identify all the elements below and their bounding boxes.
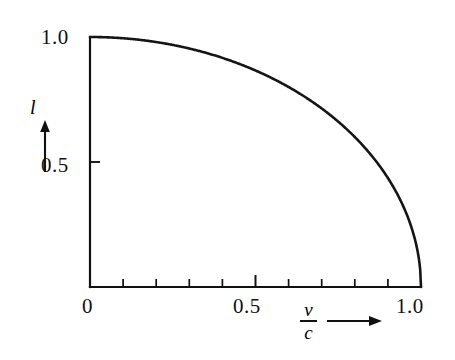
fraction-denominator: c: [301, 322, 315, 342]
y-tick-label-1: 1.0: [41, 25, 69, 50]
x-axis-arrow-icon: [326, 313, 384, 329]
y-tick-label-0point5: 0.5: [41, 153, 69, 178]
v-over-c-fraction: v c: [300, 300, 317, 342]
x-tick-label-1: 1.0: [396, 294, 424, 319]
y-axis-title: l: [30, 96, 36, 119]
figure-container: 1.0 0.5 0 0.5 1.0 l v c: [0, 0, 455, 360]
x-tick-label-0: 0: [82, 294, 93, 319]
x-axis-title: v c: [300, 300, 384, 342]
fraction-numerator: v: [301, 300, 315, 320]
data-curve: [90, 37, 421, 287]
x-axis-ticks: [123, 275, 388, 287]
x-tick-label-0point5: 0.5: [233, 294, 261, 319]
plot-canvas: [0, 0, 455, 360]
